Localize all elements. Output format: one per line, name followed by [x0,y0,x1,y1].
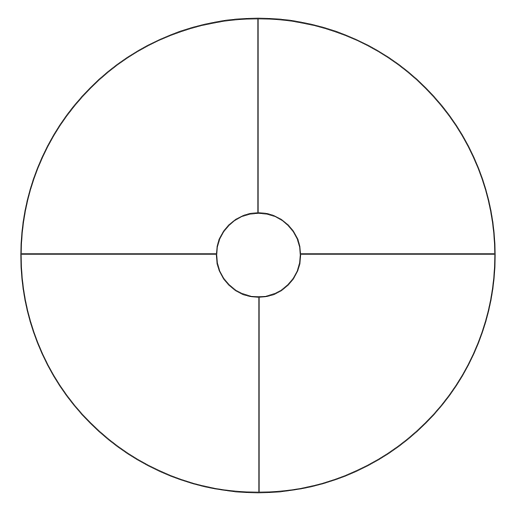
center-circle [217,213,301,297]
quadrant-circle-diagram [0,0,511,511]
